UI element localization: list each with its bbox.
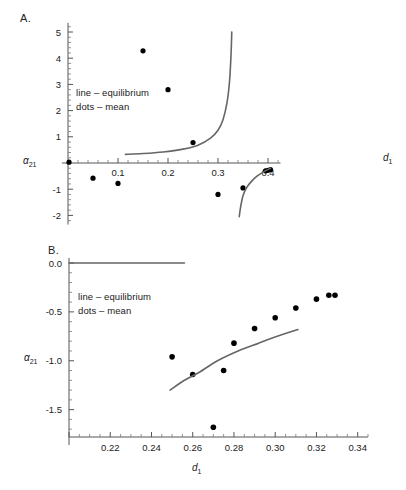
panel-b-xtick-label: 0.32 bbox=[307, 442, 326, 453]
panel-b-ytick-label: -1.5 bbox=[46, 404, 62, 415]
panel-b-mean-dot bbox=[314, 296, 320, 302]
panel-a: A. line – equilibrium dots – mean α21 d1… bbox=[0, 0, 406, 245]
panel-a-ytick-label: 5 bbox=[56, 27, 61, 38]
panel-b-ytick-label: 0.0 bbox=[49, 258, 62, 269]
panel-a-mean-dot bbox=[115, 181, 120, 186]
panel-a-ytick-label: -2 bbox=[53, 210, 61, 221]
panel-a-ytick-label: 2 bbox=[56, 105, 61, 116]
panel-b: B. line – equilibrium dots – mean α21 d1… bbox=[0, 240, 406, 490]
panel-a-plot: 0.10.20.30.4-2-112345 bbox=[0, 0, 406, 245]
panel-b-xtick-label: 0.34 bbox=[348, 442, 367, 453]
panel-b-mean-dot bbox=[252, 326, 258, 332]
panel-b-mean-dot bbox=[326, 292, 332, 298]
panel-a-mean-dot bbox=[140, 48, 145, 53]
panel-b-ytick-label: -0.5 bbox=[46, 306, 62, 317]
panel-b-mean-dot bbox=[293, 305, 299, 311]
figure-container: A. line – equilibrium dots – mean α21 d1… bbox=[0, 0, 406, 490]
panel-a-mean-dot bbox=[190, 140, 195, 145]
panel-b-mean-dot bbox=[221, 368, 227, 374]
panel-b-xtick-label: 0.28 bbox=[225, 442, 244, 453]
panel-b-mean-dot bbox=[332, 292, 338, 298]
panel-b-xtick-label: 0.24 bbox=[142, 442, 161, 453]
panel-b-xtick-label: 0.22 bbox=[101, 442, 120, 453]
panel-a-mean-dot bbox=[66, 160, 71, 165]
panel-a-mean-dot bbox=[215, 192, 220, 197]
panel-a-mean-dot bbox=[165, 87, 170, 92]
panel-a-ytick-label: 3 bbox=[56, 79, 61, 90]
panel-a-ytick-label: -1 bbox=[53, 184, 61, 195]
panel-a-ytick-label: 1 bbox=[56, 131, 61, 142]
panel-b-plot: 0.220.240.260.280.300.320.340.0-0.5-1.0-… bbox=[0, 240, 406, 490]
panel-a-mean-dot bbox=[90, 176, 95, 181]
panel-b-mean-dot bbox=[169, 354, 175, 360]
panel-b-xtick-label: 0.30 bbox=[266, 442, 285, 453]
panel-b-xtick-label: 0.26 bbox=[183, 442, 202, 453]
panel-a-ytick-label: 4 bbox=[56, 53, 61, 64]
panel-b-equilibrium-curve bbox=[170, 329, 298, 390]
panel-b-mean-dot bbox=[272, 315, 278, 321]
panel-a-xtick-label: 0.1 bbox=[111, 167, 124, 178]
panel-b-mean-dot bbox=[231, 340, 237, 346]
panel-a-xtick-label: 0.3 bbox=[211, 167, 224, 178]
panel-b-ytick-label: -1.0 bbox=[46, 355, 62, 366]
panel-b-mean-dot bbox=[211, 424, 217, 430]
panel-a-xtick-label: 0.2 bbox=[161, 167, 174, 178]
